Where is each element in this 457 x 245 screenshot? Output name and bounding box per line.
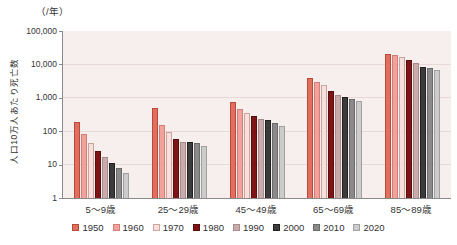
bar-1960-65〜69歳 xyxy=(314,82,320,198)
legend-label: 1960 xyxy=(123,222,144,233)
legend-swatch-icon xyxy=(313,224,320,231)
y-tick-label: 10 xyxy=(0,160,57,169)
bar-2010-25〜29歳 xyxy=(194,143,200,198)
x-category-label: 85〜89歳 xyxy=(391,202,432,216)
legend-swatch-icon xyxy=(273,224,280,231)
legend-item-2000: 2000 xyxy=(273,222,304,233)
legend-swatch-icon xyxy=(353,224,360,231)
y-tick-label: 10,000 xyxy=(0,60,57,69)
bar-1950-5〜9歳 xyxy=(74,122,80,198)
bar-2020-25〜29歳 xyxy=(201,146,207,198)
bar-2020-65〜69歳 xyxy=(356,101,362,198)
legend-item-1990: 1990 xyxy=(233,222,264,233)
y-axis-unit-label: （/年） xyxy=(36,4,69,18)
legend-item-2010: 2010 xyxy=(313,222,344,233)
legend-item-1950: 1950 xyxy=(72,222,103,233)
bar-1970-85〜89歳 xyxy=(399,57,405,198)
x-category-label: 5〜9歳 xyxy=(86,202,117,216)
legend-label: 2020 xyxy=(363,222,384,233)
bar-2020-45〜49歳 xyxy=(279,126,285,198)
bar-1960-5〜9歳 xyxy=(81,134,87,198)
legend-label: 1990 xyxy=(243,222,264,233)
legend-item-1970: 1970 xyxy=(153,222,184,233)
x-category-label: 25〜29歳 xyxy=(158,202,199,216)
bar-1950-85〜89歳 xyxy=(385,54,391,198)
bar-1980-65〜69歳 xyxy=(328,91,334,198)
bar-1960-25〜29歳 xyxy=(159,125,165,198)
bar-1990-5〜9歳 xyxy=(102,157,108,198)
legend-swatch-icon xyxy=(233,224,240,231)
bar-2000-5〜9歳 xyxy=(109,163,115,198)
bar-1990-25〜29歳 xyxy=(180,142,186,198)
bar-1980-85〜89歳 xyxy=(406,60,412,198)
bar-2000-65〜69歳 xyxy=(342,97,348,198)
legend-swatch-icon xyxy=(153,224,160,231)
bar-2000-85〜89歳 xyxy=(420,67,426,198)
x-category-label: 45〜49歳 xyxy=(235,202,276,216)
bar-2000-25〜29歳 xyxy=(187,142,193,198)
legend-item-1980: 1980 xyxy=(193,222,224,233)
bar-1960-45〜49歳 xyxy=(237,109,243,198)
bar-1960-85〜89歳 xyxy=(392,55,398,198)
plot-area xyxy=(62,31,451,199)
bar-2020-5〜9歳 xyxy=(123,173,129,198)
legend: 19501960197019801990200020102020 xyxy=(0,222,457,233)
legend-swatch-icon xyxy=(113,224,120,231)
bar-1990-65〜69歳 xyxy=(335,95,341,198)
bar-1950-45〜49歳 xyxy=(230,102,236,198)
legend-label: 1970 xyxy=(163,222,184,233)
bar-2010-85〜89歳 xyxy=(427,68,433,198)
legend-label: 1980 xyxy=(203,222,224,233)
bar-1950-65〜69歳 xyxy=(307,78,313,198)
bar-1970-25〜29歳 xyxy=(166,132,172,198)
bar-1950-25〜29歳 xyxy=(152,108,158,198)
bar-2010-65〜69歳 xyxy=(349,99,355,198)
bar-1970-5〜9歳 xyxy=(88,143,94,198)
bar-2020-85〜89歳 xyxy=(434,70,440,198)
legend-label: 2000 xyxy=(283,222,304,233)
legend-label: 1950 xyxy=(82,222,103,233)
bar-2000-45〜49歳 xyxy=(265,120,271,198)
y-tick-label: 1 xyxy=(0,194,57,203)
legend-swatch-icon xyxy=(72,224,79,231)
legend-swatch-icon xyxy=(193,224,200,231)
bar-1980-5〜9歳 xyxy=(95,151,101,198)
bar-1990-85〜89歳 xyxy=(413,63,419,198)
y-tick-label: 100,000 xyxy=(0,27,57,36)
bar-1970-65〜69歳 xyxy=(321,85,327,198)
y-tick-label: 100 xyxy=(0,127,57,136)
bar-1990-45〜49歳 xyxy=(258,119,264,198)
legend-label: 2010 xyxy=(323,222,344,233)
bar-1980-45〜49歳 xyxy=(251,116,257,198)
y-tick-label: 1,000 xyxy=(0,93,57,102)
mortality-rate-bar-chart: （/年） 人口10万人あたり死亡数 100,00010,0001,0001001… xyxy=(0,0,457,245)
x-category-label: 65〜69歳 xyxy=(313,202,354,216)
bar-1970-45〜49歳 xyxy=(244,113,250,198)
bar-2010-5〜9歳 xyxy=(116,168,122,198)
legend-item-2020: 2020 xyxy=(353,222,384,233)
legend-item-1960: 1960 xyxy=(113,222,144,233)
y-axis-title: 人口10万人あたり死亡数 xyxy=(7,51,19,171)
bar-2010-45〜49歳 xyxy=(272,123,278,198)
bar-1980-25〜29歳 xyxy=(173,139,179,198)
